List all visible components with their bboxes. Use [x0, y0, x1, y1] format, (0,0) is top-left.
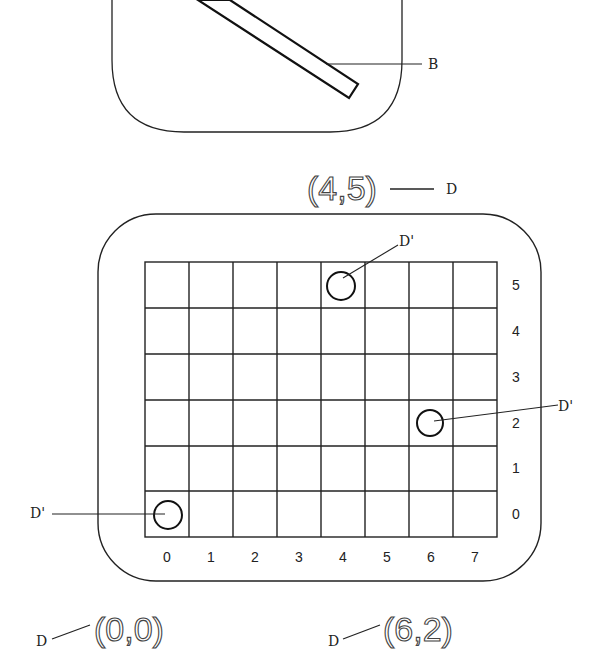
- svg-text:4: 4: [339, 549, 347, 565]
- svg-text:1: 1: [207, 549, 215, 565]
- diagram-canvas: B (4,5) D 0 1 2 3 4 5 6 7 5 4 3 2 1: [0, 0, 609, 663]
- y-axis-labels: 5 4 3 2 1 0: [512, 277, 520, 522]
- marker-6-2: [417, 405, 558, 436]
- svg-text:3: 3: [295, 549, 303, 565]
- bar-b-label: B: [428, 56, 438, 72]
- x-axis-labels: 0 1 2 3 4 5 6 7: [163, 549, 479, 565]
- coord-label-4-5-pointer: D: [446, 181, 457, 197]
- marker-4-5: [327, 245, 398, 300]
- svg-text:4: 4: [512, 323, 520, 339]
- coord-label-0-0-pointer: D: [36, 633, 47, 649]
- coord-label-0-0: (0,0): [94, 610, 164, 648]
- svg-text:3: 3: [512, 369, 520, 385]
- grid: [145, 262, 497, 537]
- svg-text:0: 0: [163, 549, 171, 565]
- marker-6-2-label: D': [558, 398, 573, 414]
- coord-label-6-2: (6,2): [383, 610, 453, 648]
- svg-text:0: 0: [512, 506, 520, 522]
- marker-0-0: [52, 501, 182, 529]
- coord-label-6-2-pointer: D: [328, 633, 339, 649]
- svg-text:2: 2: [512, 415, 520, 431]
- svg-text:5: 5: [383, 549, 391, 565]
- coord-label-4-5: (4,5): [307, 169, 377, 207]
- board-frame: [98, 214, 541, 581]
- marker-0-0-label: D': [30, 505, 45, 521]
- svg-text:2: 2: [251, 549, 259, 565]
- svg-text:6: 6: [427, 549, 435, 565]
- bar-b: [198, 0, 422, 98]
- svg-text:1: 1: [512, 460, 520, 476]
- svg-text:5: 5: [512, 277, 520, 293]
- marker-4-5-label: D': [399, 233, 414, 249]
- svg-text:7: 7: [471, 549, 479, 565]
